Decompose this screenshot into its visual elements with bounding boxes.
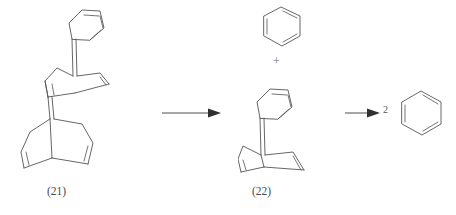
product-coefficient: 2 — [383, 105, 388, 115]
structure-22-label: (22) — [252, 186, 271, 198]
structure-21-drawing — [0, 0, 150, 185]
benzene-ring-top-of-21 — [69, 10, 104, 40]
benzene-ring-of-22 — [257, 89, 292, 119]
reaction-arrow-1 — [160, 104, 230, 124]
lower-bicyclooctadiene-cage-of-21 — [21, 119, 93, 168]
benzene-ring-coproduct — [256, 2, 316, 57]
benzene-ring-product — [396, 86, 456, 144]
upper-bicyclooctadiene-cage-of-21 — [45, 39, 109, 119]
reaction-scheme: (21) + — [0, 0, 456, 215]
structure-22-drawing — [238, 60, 348, 185]
structure-21-label: (21) — [47, 186, 66, 198]
bicyclooctadiene-cage-of-22 — [238, 118, 304, 172]
